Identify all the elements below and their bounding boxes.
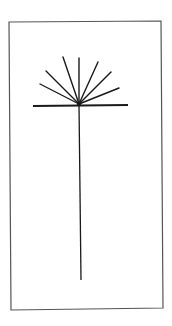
stem-line <box>79 104 81 280</box>
radiating-stem-drawing <box>0 0 172 326</box>
ray-line-6 <box>79 72 111 104</box>
figure-canvas <box>0 0 172 326</box>
hub-dot <box>77 102 81 106</box>
frame-rectangle <box>9 21 163 310</box>
ray-fan <box>40 57 119 104</box>
